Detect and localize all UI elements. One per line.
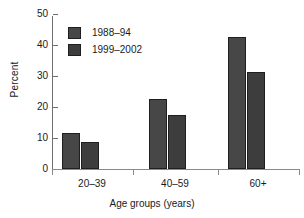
bar	[81, 142, 99, 169]
y-axis-tick-label: 0	[8, 164, 48, 174]
legend-swatch-icon	[68, 27, 81, 39]
x-axis-title: Age groups (years)	[0, 198, 304, 209]
bar-chart-figure: Percent 01020304050 20–3940–5960+ Age gr…	[0, 0, 304, 218]
x-axis-tick	[133, 170, 134, 175]
legend-entry: 1999–2002	[68, 41, 142, 58]
x-axis-category-label: 60+	[223, 178, 293, 189]
bar	[149, 99, 167, 169]
y-axis-tick-label: 10	[8, 133, 48, 143]
legend-swatch-icon	[68, 44, 81, 56]
legend-label: 1999–2002	[92, 45, 142, 55]
x-axis-category-label: 40–59	[140, 178, 210, 189]
bar	[168, 115, 186, 169]
y-axis-tick-labels: 01020304050	[0, 0, 48, 218]
x-axis-tick	[52, 170, 53, 175]
legend-entry: 1988–94	[68, 24, 142, 41]
y-axis-tick-label: 20	[8, 102, 48, 112]
x-axis-tick	[299, 170, 300, 175]
x-axis-line	[52, 169, 300, 170]
legend: 1988–94 1999–2002	[68, 24, 142, 58]
x-axis-category-label: 20–39	[57, 178, 127, 189]
legend-label: 1988–94	[92, 28, 131, 38]
bar	[62, 133, 80, 169]
y-axis-tick-label: 50	[8, 9, 48, 19]
y-axis-tick-label: 40	[8, 40, 48, 50]
y-axis-tick-label: 30	[8, 71, 48, 81]
x-axis-tick	[218, 170, 219, 175]
bar	[247, 72, 265, 169]
bar	[228, 37, 246, 169]
